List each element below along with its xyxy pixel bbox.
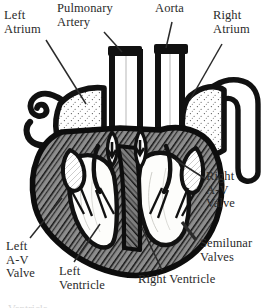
heart-diagram-figure: Left Atrium Pulmonary Artery Aorta Right… (0, 0, 267, 308)
aorta-cut-end (154, 44, 188, 54)
label-aorta: Aorta (155, 2, 184, 16)
label-right-atrium: Right Atrium (213, 9, 250, 36)
label-left-atrium: Left Atrium (4, 9, 41, 36)
label-right-ventricle: Right Ventricle (138, 273, 215, 287)
cut-off-caption: Ventricle (8, 303, 259, 308)
label-left-av-valve: Left A-V Valve (6, 240, 35, 281)
label-left-ventricle: Left Ventricle (59, 265, 105, 292)
label-semilunar-valves: Semilunar Valves (200, 237, 252, 264)
label-pulmonary-artery: Pulmonary Artery (57, 2, 113, 29)
pulmonary-artery-cut-end (108, 46, 142, 56)
label-right-av-valve: Right A-V Valve (206, 170, 235, 211)
